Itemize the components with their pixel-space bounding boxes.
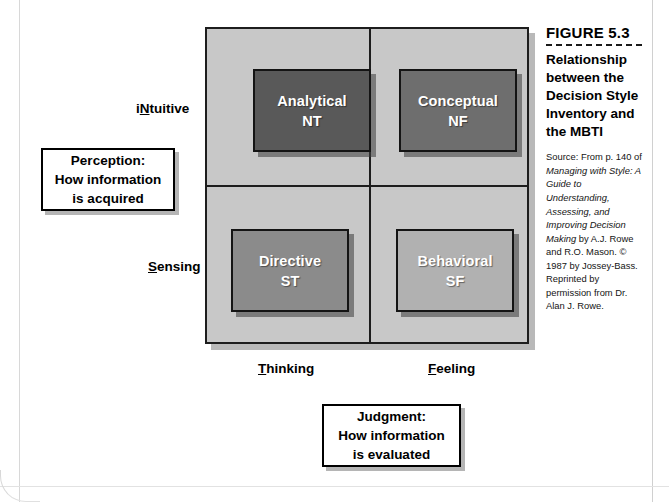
perception-callout: Perception: How information is acquired (41, 148, 175, 211)
quadrant-box-behavioral[interactable]: Behavioral SF (396, 229, 514, 312)
matrix-horizontal-divider (205, 185, 529, 187)
quadrant-code-analytical: NT (302, 111, 322, 131)
judgment-line-3: is evaluated (353, 445, 430, 464)
quadrant-box-conceptual[interactable]: Conceptual NF (399, 69, 517, 152)
axis-label-sensing: Sensing (148, 259, 201, 274)
quadrant-code-behavioral: SF (446, 271, 465, 291)
axis-thinking-suffix: hinking (266, 361, 314, 376)
axis-sensing-key: S (148, 259, 157, 274)
judgment-line-1: Judgment: (357, 407, 426, 426)
quadrant-name-behavioral: Behavioral (417, 251, 492, 271)
quadrant-code-conceptual: NF (448, 111, 468, 131)
perception-line-2: How information (55, 170, 162, 189)
axis-label-feeling: Feeling (428, 361, 475, 376)
page-corner-curl (0, 470, 40, 502)
quadrant-name-analytical: Analytical (277, 91, 347, 111)
figure-number-label: FIGURE 5.3 (546, 24, 646, 41)
figure-title: Relationship between the Decision Style … (546, 51, 646, 141)
figure-caption-column: FIGURE 5.3 Relationship between the Deci… (546, 24, 646, 313)
page-edge-bottom-rule (0, 486, 669, 487)
perception-line-1: Perception: (71, 151, 145, 170)
axis-thinking-key: T (258, 361, 266, 376)
quadrant-name-conceptual: Conceptual (418, 91, 498, 111)
axis-intuitive-suffix: tuitive (150, 101, 190, 116)
quadrant-code-directive: ST (281, 271, 300, 291)
perception-line-3: is acquired (72, 189, 143, 208)
quadrant-name-directive: Directive (259, 251, 321, 271)
quadrant-box-analytical[interactable]: Analytical NT (253, 69, 371, 152)
axis-intuitive-key: N (140, 101, 150, 116)
axis-feeling-suffix: eeling (436, 361, 475, 376)
caption-dashed-rule (546, 44, 642, 46)
axis-sensing-suffix: ensing (157, 259, 201, 274)
figure-source-note: Source: From p. 140 of Managing with Sty… (546, 150, 646, 312)
axis-label-intuitive: iNtuitive (136, 101, 189, 116)
judgment-callout: Judgment: How information is evaluated (322, 404, 461, 467)
source-suffix: by A.J. Rowe and R.O. Mason. © 1987 by J… (546, 233, 638, 312)
page-edge-right-rule (652, 0, 653, 502)
source-prefix: Source: From p. 140 of (546, 151, 642, 162)
axis-feeling-key: F (428, 361, 436, 376)
quadrant-box-directive[interactable]: Directive ST (231, 229, 349, 312)
judgment-line-2: How information (338, 426, 445, 445)
axis-label-thinking: Thinking (258, 361, 314, 376)
page-edge-left-rule (19, 0, 20, 502)
